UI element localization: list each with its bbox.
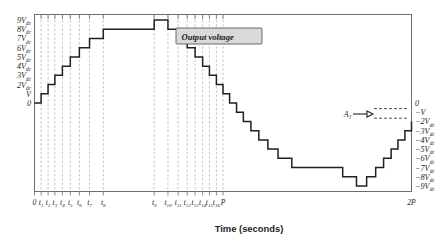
aj-annotation-label: AJ	[343, 110, 352, 120]
x-axis-tick-label: t16	[213, 198, 221, 208]
x-axis-tick-label: t7	[87, 198, 92, 208]
x-axis-tick-label: 2P	[407, 198, 416, 207]
x-axis-tick-label: t9	[152, 198, 157, 208]
x-axis-tick-labels: 0t1t2t3t4t5t6t7t8t9t10t11t12t13t14t15t16…	[33, 198, 416, 208]
staircase-waveform-chart: 9Vdc8Vdc7Vdc6Vdc5Vdc4Vdc3Vdc2VdcV0 0−V−2…	[0, 0, 446, 241]
aj-annotation: AJ	[343, 109, 409, 120]
x-axis-tick-label: t1	[39, 198, 44, 208]
x-axis-tick-label: t5	[68, 198, 73, 208]
y-axis-right-labels: 0−V−2Vdc−3Vdc−4Vdc−5Vdc−6Vdc−7Vdc−8Vdc−9…	[415, 99, 435, 192]
x-axis-tick-label: t4	[60, 198, 65, 208]
y-axis-left-label: 0	[27, 99, 31, 108]
x-axis-tick-label: t2	[46, 198, 51, 208]
y-axis-left-label: V	[26, 90, 32, 99]
x-axis-tick-label: t8	[101, 198, 106, 208]
x-axis-tick-label: t12	[184, 198, 192, 208]
output-voltage-callout: Output voltage	[176, 28, 262, 44]
x-axis-tick-label: 0	[33, 198, 37, 207]
figure-container: 9Vdc8Vdc7Vdc6Vdc5Vdc4Vdc3Vdc2VdcV0 0−V−2…	[0, 0, 446, 241]
x-axis-tick-label: t6	[77, 198, 82, 208]
x-axis-tick-label: t3	[53, 198, 58, 208]
x-axis-tick-label: t13	[192, 198, 200, 208]
callout-label: Output voltage	[182, 32, 234, 42]
x-axis-tick-label: P	[220, 198, 226, 207]
x-axis-title: Time (seconds)	[215, 223, 284, 234]
x-axis-tick-label: t10	[164, 198, 172, 208]
aj-arrow-head	[367, 111, 373, 117]
aj-subscript: J	[349, 114, 352, 120]
y-axis-right-label: −V	[415, 108, 427, 117]
x-axis-tick-label: t11	[175, 198, 182, 208]
y-axis-right-label: 0	[415, 99, 419, 108]
y-axis-left-labels: 9Vdc8Vdc7Vdc6Vdc5Vdc4Vdc3Vdc2VdcV0	[16, 16, 32, 108]
y-axis-right-label: −9Vdc	[415, 182, 435, 192]
